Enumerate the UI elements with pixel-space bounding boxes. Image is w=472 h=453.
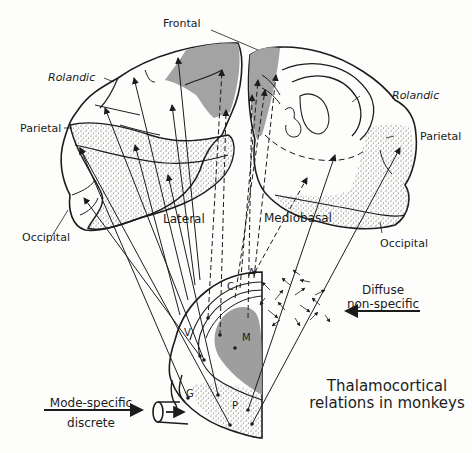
label-nucleus-c: C: [227, 282, 234, 292]
figure-title-line1: Thalamocortical: [302, 378, 472, 395]
label-frontal: Frontal: [163, 18, 201, 29]
label-rolandic-left: Rolandic: [48, 72, 95, 83]
label-nucleus-p: P: [232, 401, 238, 411]
figure-title-line2: relations in monkeys: [302, 395, 472, 412]
label-rolandic-right: Rolandic: [392, 90, 439, 101]
thalamocortical-diagram: Frontal Rolandic Parietal Occipital Rola…: [0, 0, 472, 453]
figure-title: Thalamocortical relations in monkeys: [302, 378, 472, 413]
label-mode-specific: Mode-specific discrete: [42, 396, 140, 431]
label-mediobasal: Mediobasal: [264, 212, 332, 224]
label-occipital-right: Occipital: [380, 238, 428, 249]
label-occipital-left: Occipital: [22, 232, 70, 243]
label-diffuse: Diffuse non-specific: [341, 283, 425, 312]
label-nucleus-g: G: [186, 389, 194, 399]
label-parietal-left: Parietal: [20, 123, 61, 134]
label-nucleus-a: A: [248, 268, 255, 278]
label-lateral: Lateral: [163, 213, 205, 225]
label-nucleus-m: M: [242, 333, 251, 343]
label-nucleus-v: V: [184, 328, 191, 338]
label-mode-line2: discrete: [42, 416, 140, 430]
label-diffuse-line2: non-specific: [341, 297, 425, 311]
right-hemisphere: [248, 47, 416, 229]
label-mode-line1: Mode-specific: [42, 396, 140, 410]
label-parietal-right: Parietal: [420, 131, 461, 142]
label-diffuse-line1: Diffuse: [341, 283, 425, 297]
